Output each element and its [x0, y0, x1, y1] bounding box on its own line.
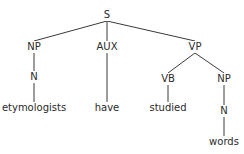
leaf-etymologists: etymologists	[1, 102, 67, 114]
node-s: S	[103, 9, 111, 21]
node-vp: VP	[188, 41, 203, 53]
node-np-object: NP	[216, 73, 232, 85]
edge-vp-np2	[195, 53, 224, 73]
node-n-subject: N	[29, 71, 38, 83]
node-n-object: N	[219, 105, 228, 117]
node-np-subject: NP	[26, 41, 42, 53]
edge-s-vp	[107, 21, 195, 41]
node-vb: VB	[160, 73, 176, 85]
node-aux: AUX	[95, 41, 118, 53]
leaf-have: have	[94, 102, 121, 114]
leaf-words: words	[208, 136, 240, 148]
edge-vp-vb	[168, 53, 195, 73]
leaf-studied: studied	[148, 102, 187, 114]
edge-s-np1	[34, 21, 107, 41]
